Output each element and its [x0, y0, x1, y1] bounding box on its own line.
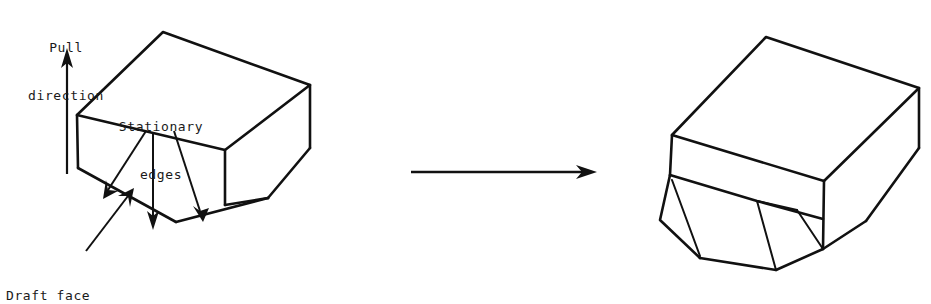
- pull-direction-label-line1: Pull: [6, 40, 126, 56]
- stationary-edges-label-line1: Stationary: [100, 119, 222, 135]
- transformation-arrow: [411, 165, 597, 179]
- draft-face-label: Draft face: [6, 256, 136, 304]
- right-block-shape: [660, 37, 919, 270]
- draft-face-label-line1: Draft face: [6, 288, 136, 304]
- stationary-edges-label-line2: edges: [100, 167, 222, 183]
- stationary-edges-label: Stationary edges: [100, 87, 222, 215]
- right-block-front-corner-edge: [823, 181, 824, 249]
